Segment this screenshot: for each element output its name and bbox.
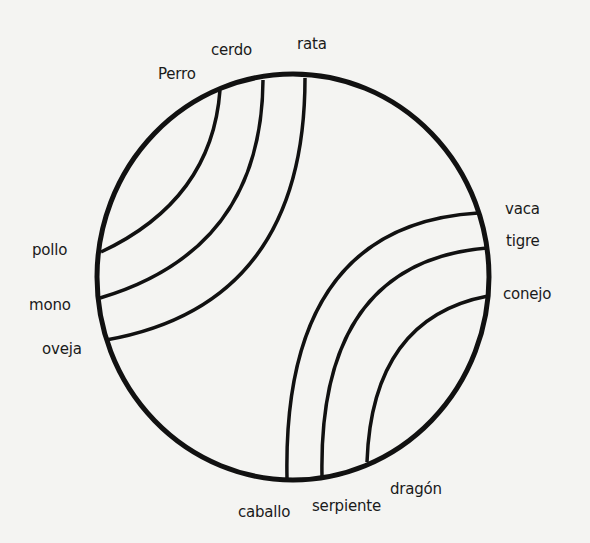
label-rata: rata bbox=[297, 37, 327, 52]
zodiac-circle-diagram: Perro cerdo rata pollo mono oveja vaca t… bbox=[0, 0, 590, 543]
label-vaca: vaca bbox=[505, 202, 540, 217]
arc-perro-pollo bbox=[101, 90, 220, 252]
label-perro: Perro bbox=[158, 67, 196, 82]
label-dragon: dragón bbox=[390, 482, 442, 497]
label-cerdo: cerdo bbox=[211, 43, 252, 58]
arc-rata-oveja bbox=[106, 78, 305, 340]
diagram-canvas bbox=[0, 0, 590, 543]
label-oveja: oveja bbox=[42, 342, 82, 357]
label-pollo: pollo bbox=[32, 243, 67, 258]
label-serpiente: serpiente bbox=[312, 499, 381, 514]
label-conejo: conejo bbox=[503, 287, 551, 302]
arc-conejo-dragon bbox=[367, 296, 488, 462]
label-tigre: tigre bbox=[506, 234, 540, 249]
label-caballo: caballo bbox=[238, 505, 290, 520]
label-mono: mono bbox=[29, 298, 71, 313]
